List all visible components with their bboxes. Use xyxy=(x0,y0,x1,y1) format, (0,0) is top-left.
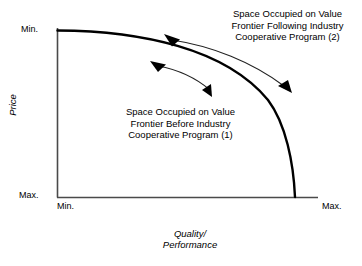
annotation-following-line-3: Cooperative Program (2) xyxy=(235,31,340,42)
annotation-before-line-3: Cooperative Program (1) xyxy=(128,129,233,140)
y-axis-tick-max: Max. xyxy=(19,190,39,200)
x-axis-title-line-2: Performance xyxy=(163,239,217,250)
y-axis-tick-min: Min. xyxy=(21,24,38,34)
annotation-before-line-2: Frontier Before Industry xyxy=(131,118,231,129)
inner-arrow-head-upper-left xyxy=(150,61,166,72)
annotation-following-line-2: Frontier Following Industry xyxy=(232,20,344,31)
x-axis-title-line-1: Quality/ xyxy=(174,228,206,239)
annotation-following-program: Space Occupied on Value Frontier Followi… xyxy=(215,8,360,43)
x-axis-tick-min: Min. xyxy=(57,201,74,211)
y-axis-title: Price xyxy=(8,85,18,125)
value-frontier-chart: Min. Max. Min. Max. Price Quality/ Perfo… xyxy=(0,0,362,266)
annotation-before-program: Space Occupied on Value Frontier Before … xyxy=(108,106,253,141)
outer-arrow-shaft xyxy=(172,40,284,86)
annotation-following-line-1: Space Occupied on Value xyxy=(233,8,342,19)
outer-arrow-head-upper-left xyxy=(164,34,180,47)
x-axis-tick-max: Max. xyxy=(322,201,342,211)
inner-arrow-head-lower-right xyxy=(202,84,212,97)
inner-arrow-shaft xyxy=(158,66,210,90)
annotation-before-line-1: Space Occupied on Value xyxy=(126,106,235,117)
outer-arrow-head-lower-right xyxy=(278,80,292,93)
x-axis-title: Quality/ Performance xyxy=(140,228,240,250)
